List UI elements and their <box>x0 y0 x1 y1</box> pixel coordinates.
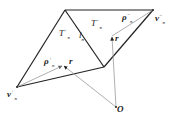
label-origin: O <box>117 105 124 114</box>
label-l-n: ln <box>79 31 84 42</box>
label-rho-minus: ρ−n <box>122 12 133 24</box>
diagram-lines <box>0 0 174 120</box>
label-r-left: r <box>69 57 73 66</box>
label-v-plus: v+n <box>7 89 17 101</box>
rwg-basis-diagram: T+n T−n ln ρ−n v−n r ρ+n r v+n O <box>0 0 174 120</box>
label-v-minus: v−n <box>155 13 165 25</box>
label-rho-plus: ρ+n <box>44 56 55 68</box>
position-vectors <box>17 10 153 107</box>
label-T-plus: T+n <box>59 28 70 40</box>
label-T-minus: T−n <box>91 18 102 30</box>
label-r-right: r <box>115 34 119 43</box>
